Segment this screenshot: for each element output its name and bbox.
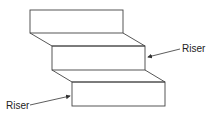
- bottom-step-riser: [72, 82, 165, 106]
- middle-step-riser: [52, 46, 145, 70]
- riser-right-label: Riser: [182, 44, 205, 54]
- top-step-riser: [30, 10, 123, 33]
- tread-1: [30, 33, 145, 46]
- riser-right-arrow: [148, 49, 180, 57]
- riser-left-arrow: [30, 96, 70, 105]
- staircase-diagram: [0, 0, 216, 121]
- riser-left-label: Riser: [6, 101, 29, 111]
- tread-2: [52, 70, 165, 82]
